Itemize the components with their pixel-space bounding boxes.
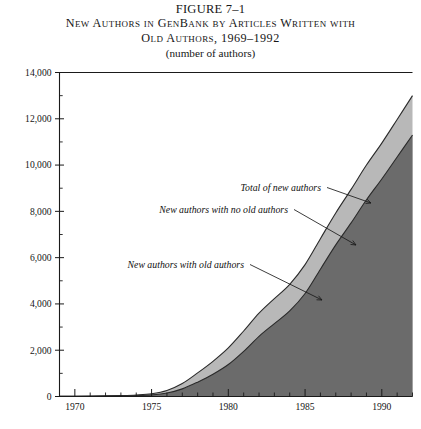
y-tick-label: 12,000 bbox=[25, 113, 52, 124]
x-tick-label: 1980 bbox=[219, 401, 238, 412]
chart-annotation-label: New authors with old authors bbox=[127, 259, 245, 270]
chart-annotation-label: New authors with no old authors bbox=[158, 204, 288, 215]
y-tick-label: 8,000 bbox=[30, 206, 52, 217]
y-tick-label: 10,000 bbox=[25, 159, 52, 170]
y-tick-label: 2,000 bbox=[30, 345, 52, 356]
x-tick-label: 1990 bbox=[372, 401, 391, 412]
x-tick-label: 1985 bbox=[295, 401, 314, 412]
x-tick-label: 1970 bbox=[65, 401, 84, 412]
chart-annotation-label: Total of new authors bbox=[241, 182, 322, 193]
y-tick-label: 0 bbox=[47, 391, 52, 402]
y-tick-label: 14,000 bbox=[25, 67, 52, 78]
area-chart-svg: 02,0004,0006,0008,00010,00012,00014,0001… bbox=[0, 0, 421, 429]
x-tick-label: 1975 bbox=[142, 401, 161, 412]
chart-plot-area: 02,0004,0006,0008,00010,00012,00014,0001… bbox=[0, 0, 421, 429]
y-tick-label: 4,000 bbox=[30, 298, 52, 309]
y-tick-label: 6,000 bbox=[30, 252, 52, 263]
figure-container: FIGURE 7–1 New Authors in GenBank by Art… bbox=[0, 0, 421, 429]
